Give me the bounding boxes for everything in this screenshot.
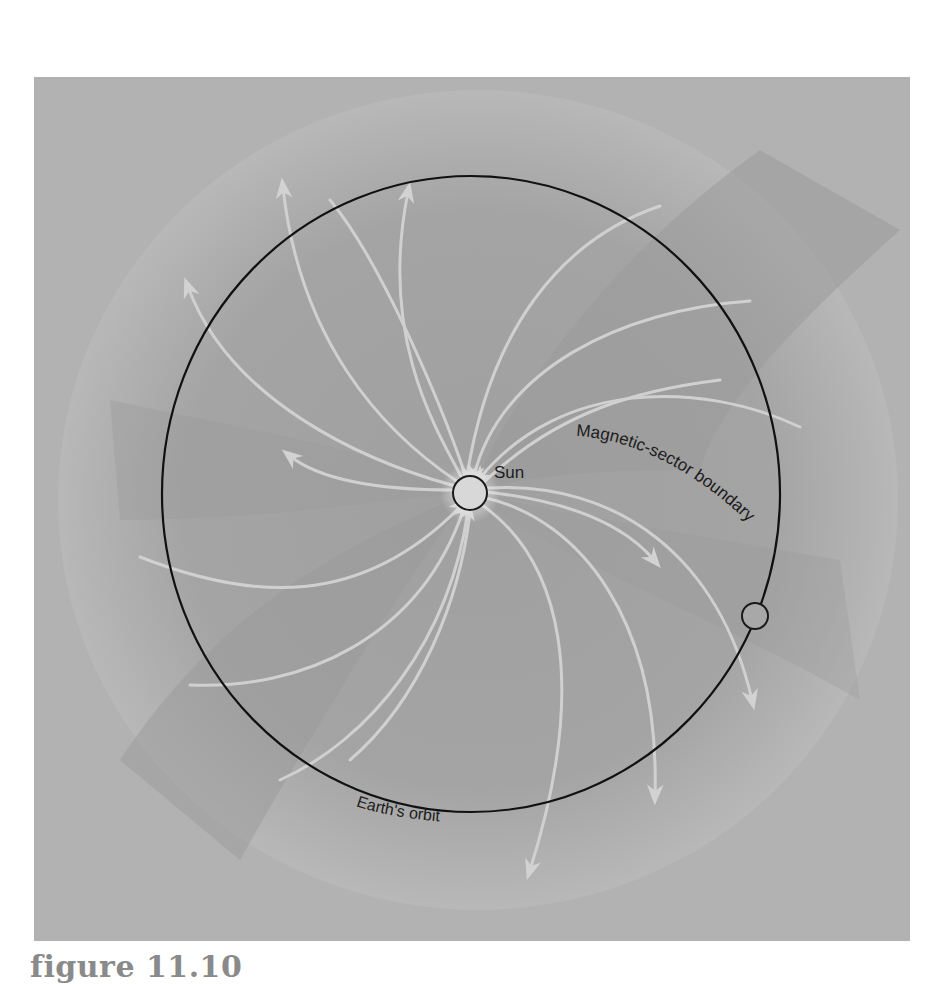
- figure-caption: figure 11.10: [30, 950, 242, 984]
- sun-label: Sun: [494, 463, 524, 482]
- earth: [742, 603, 768, 629]
- sun: [453, 476, 487, 510]
